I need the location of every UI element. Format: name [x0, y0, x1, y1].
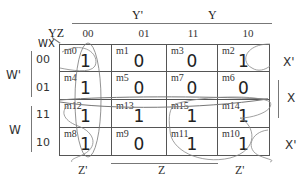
- group-loop-row11: [60, 97, 268, 107]
- group-loop-m8-left: [64, 104, 93, 162]
- group-loop-m0-m2-left: [60, 48, 96, 71]
- grouping-loops: [0, 0, 304, 184]
- group-loop-col00: [75, 43, 101, 157]
- group-loop-m10-right: [251, 130, 272, 162]
- group-loop-m0-m2-right: [246, 44, 270, 70]
